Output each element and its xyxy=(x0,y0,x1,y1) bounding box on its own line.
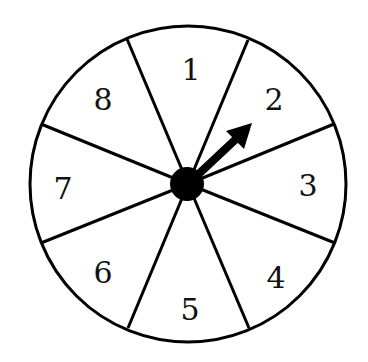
section-label-4: 4 xyxy=(266,260,285,295)
section-label-2: 2 xyxy=(264,82,283,117)
section-label-8: 8 xyxy=(93,82,112,117)
section-label-7: 7 xyxy=(53,171,72,206)
section-label-6: 6 xyxy=(93,255,112,290)
spinner-diagram: 1 2 3 4 5 6 7 8 xyxy=(0,0,368,362)
spinner-hub xyxy=(170,167,204,201)
section-label-3: 3 xyxy=(298,168,317,203)
section-label-5: 5 xyxy=(180,292,199,327)
section-label-1: 1 xyxy=(181,52,200,87)
